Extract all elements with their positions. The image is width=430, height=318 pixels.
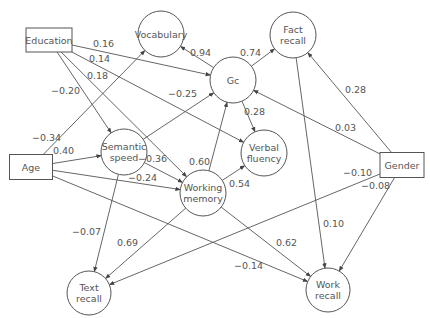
edge-label-working_memory-to-text_recall: 0.69 <box>117 237 138 248</box>
node-gc: Gc <box>210 57 256 103</box>
edge-label-age-to-working_memory: −0.24 <box>128 172 157 183</box>
node-label: Education <box>25 35 72 46</box>
node-label: recall <box>280 35 306 46</box>
edge-label-gc-to-verbal_fluency: 0.28 <box>244 106 265 117</box>
node-vocabulary: Vocabulary <box>135 11 188 57</box>
node-label: speed <box>110 152 139 163</box>
node-education: Education <box>25 28 72 52</box>
node-label: Semantic <box>102 141 147 152</box>
edge-label-gender-to-text_recall: −0.10 <box>343 167 372 178</box>
path-diagram: EducationAgeGenderVocabularyFactrecallGc… <box>0 0 430 318</box>
edge-working_memory-to-gc <box>209 102 227 171</box>
edge-age-to-semantic_speed <box>53 156 102 164</box>
edge-label-semantic_speed-to-working_memory: −0.36 <box>138 153 167 164</box>
node-label: Gc <box>227 75 240 86</box>
node-text-recall: Textrecall <box>67 271 111 315</box>
edge-label-working_memory-to-verbal_fluency: 0.54 <box>229 178 250 189</box>
node-label: Gender <box>384 160 419 171</box>
edge-gender-to-fact_recall <box>308 53 392 153</box>
node-label: recall <box>315 290 341 301</box>
edge-label-age-to-vocabulary: −0.34 <box>32 132 61 143</box>
nodes-layer: EducationAgeGenderVocabularyFactrecallGc… <box>10 11 425 315</box>
node-label: recall <box>76 293 102 304</box>
edge-label-gender-to-work_recall: −0.08 <box>361 180 390 191</box>
node-verbal-fluency: Verbalfluency <box>241 130 287 176</box>
node-label: Working <box>184 182 223 193</box>
node-semantic-speed: Semanticspeed <box>101 129 147 175</box>
edge-label-semantic_speed-to-gc: −0.25 <box>168 88 197 99</box>
node-label: Fact <box>283 24 303 35</box>
edge-fact_recall-to-work_recall <box>296 58 325 268</box>
edge-semantic_speed-to-text_recall <box>94 174 118 271</box>
edge-label-education-to-working_memory: 0.18 <box>87 70 108 81</box>
edge-label-gender-to-gc: 0.03 <box>335 122 356 133</box>
edge-label-gender-to-fact_recall: 0.28 <box>345 84 366 95</box>
edge-label-age-to-semantic_speed: 0.40 <box>53 145 74 156</box>
node-label: Vocabulary <box>135 29 188 40</box>
edge-label-gc-to-fact_recall: 0.74 <box>240 47 261 58</box>
edge-label-fact_recall-to-work_recall: 0.10 <box>323 218 344 229</box>
node-label: Work <box>316 279 341 290</box>
node-age: Age <box>10 155 53 180</box>
edge-label-gc-to-vocabulary: 0.94 <box>190 47 211 58</box>
edge-gender-to-work_recall <box>339 178 394 272</box>
node-fact-recall: Factrecall <box>270 12 316 58</box>
node-label: fluency <box>247 153 282 164</box>
edge-label-semantic_speed-to-text_recall: −0.07 <box>72 226 101 237</box>
node-working-memory: Workingmemory <box>180 170 226 216</box>
edge-label-education-to-verbal_fluency: 0.14 <box>89 53 110 64</box>
node-label: Age <box>22 162 41 173</box>
edge-label-working_memory-to-gc: 0.60 <box>189 156 210 167</box>
edge-label-age-to-work_recall: −0.14 <box>234 260 263 271</box>
edge-label-education-to-gc: 0.16 <box>93 38 114 49</box>
edge-semantic_speed-to-gc <box>143 93 214 140</box>
node-label: memory <box>183 193 223 204</box>
node-gender: Gender <box>380 153 424 178</box>
edge-label-working_memory-to-work_recall: 0.62 <box>276 237 297 248</box>
node-label: Verbal <box>249 142 279 153</box>
node-label: Text <box>78 282 98 293</box>
node-work-recall: Workrecall <box>306 268 350 312</box>
edge-label-education-to-semantic_speed: −0.20 <box>51 85 80 96</box>
